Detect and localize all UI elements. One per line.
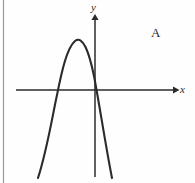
panel-letter-label: A: [151, 26, 161, 39]
y-axis-arrow-icon: [91, 14, 98, 20]
x-axis-arrow-icon: [173, 86, 180, 93]
y-axis-label: y: [91, 2, 96, 13]
x-axis-label: x: [180, 84, 185, 95]
parabola-curve: [38, 40, 112, 178]
plot-canvas: [0, 0, 195, 183]
figure-panel: y x A: [0, 0, 195, 183]
